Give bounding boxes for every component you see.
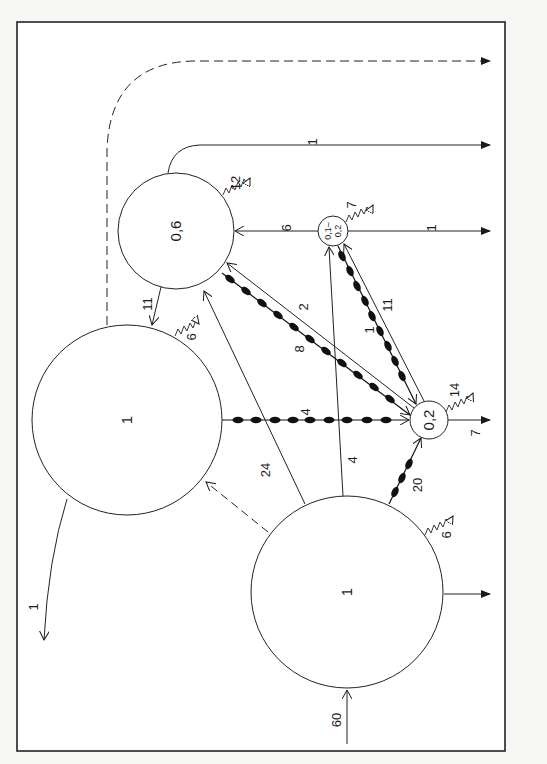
label-C-to-B: 11: [140, 297, 155, 311]
node-C-label: 0,6: [167, 221, 184, 242]
label-B-to-E: 4: [298, 408, 313, 415]
label-B-out: 1: [26, 603, 41, 610]
flow-diagram: 1 1 6 2 8 11 1: [0, 0, 547, 764]
label-E-heat: 14: [447, 383, 462, 397]
label-E-to-D: 11: [380, 298, 395, 312]
label-D-to-E: 1: [362, 326, 377, 333]
node-D-label-top: 0,1–: [323, 222, 333, 240]
label-B-heat: 6: [184, 333, 199, 340]
label-D-heat: 7: [344, 201, 359, 208]
node-D-label-bottom: 0,2: [333, 225, 343, 238]
label-A-to-D: 4: [345, 456, 360, 463]
node-D: 0,1– 0,2: [318, 216, 348, 246]
beads-B-to-E: [233, 417, 392, 424]
label-E-to-C: 2: [296, 303, 311, 310]
node-A: 1: [251, 496, 443, 688]
label-C-to-E: 8: [292, 345, 307, 352]
label-input-A: 60: [329, 713, 344, 727]
node-A-label: 1: [338, 588, 355, 596]
label-C-heat: 12: [228, 176, 243, 190]
node-B: 1: [32, 325, 222, 515]
node-C: 0,6: [118, 173, 234, 289]
node-E: 0,2: [410, 401, 448, 439]
label-A-heat: 6: [439, 531, 454, 538]
label-D-to-C: 6: [279, 224, 294, 231]
label-C-out: 1: [305, 138, 320, 145]
node-E-label: 0,2: [420, 410, 437, 431]
label-A-to-C: 24: [258, 463, 273, 477]
node-B-label: 1: [118, 416, 135, 424]
label-A-to-E: 20: [410, 478, 425, 492]
label-D-out: 1: [424, 224, 439, 231]
label-E-out: 7: [468, 429, 483, 436]
